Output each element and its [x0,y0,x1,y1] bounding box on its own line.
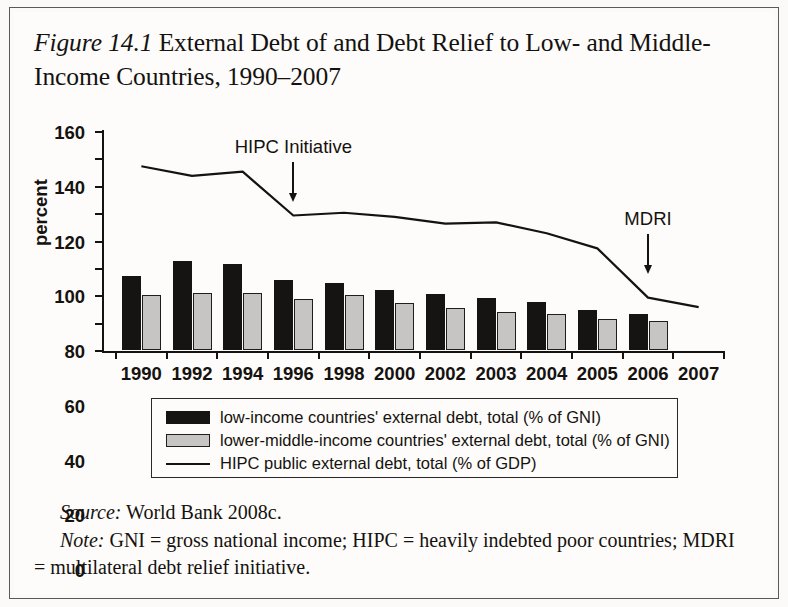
y-tick: 80 [95,241,102,243]
legend-swatch-line-icon [166,457,210,470]
figure-content: Figure 14.1 External Debt of and Debt Re… [14,12,774,595]
x-tick-label: 2004 [526,363,567,385]
source-note: Source: World Bank 2008c. [34,499,744,526]
x-tick-label: 1992 [171,363,212,385]
y-tick-label: 60 [64,396,85,418]
note-text: GNI = gross national income; HIPC = heav… [34,529,735,578]
legend-swatch-light-square-icon [166,434,210,447]
x-tick-label: 1998 [323,363,364,385]
legend-label: HIPC public external debt, total (% of G… [220,454,536,473]
legend-label: lower-middle-income countries' external … [220,431,670,450]
x-tick-label: 2007 [678,363,719,385]
source-text: World Bank 2008c. [121,501,281,523]
x-tick-label: 2002 [425,363,466,385]
chart-area: percent 020406080100120140160 1990199219… [14,112,774,402]
figure-page: Figure 14.1 External Debt of and Debt Re… [0,0,788,607]
y-tick-label: 40 [64,451,85,473]
legend-item-lower-middle-income: lower-middle-income countries' external … [166,429,677,451]
line-series-hipc [102,130,724,353]
y-tick-label: 120 [54,232,85,254]
y-tick: 120 [95,186,102,188]
x-tick-label: 2005 [577,363,618,385]
legend-item-low-income: low-income countries' external debt, tot… [166,406,677,428]
y-tick-label: 100 [54,286,85,308]
plot-region: 020406080100120140160 199019921994199619… [102,130,722,352]
annotation-label-hipc-initiative: HIPC Initiative [235,136,352,158]
y-tick: 20 [95,323,102,325]
legend-item-hipc-line: HIPC public external debt, total (% of G… [166,452,677,474]
y-tick-label: 140 [54,177,85,199]
figure-title: Figure 14.1 External Debt of and Debt Re… [34,26,734,94]
annotation-arrow-down-icon [641,234,655,274]
note-label: Note: [60,529,104,551]
x-tick-label: 2003 [475,363,516,385]
y-tick: 100 [95,213,102,215]
y-tick-label: 80 [64,341,85,363]
y-tick: 0 [95,350,102,352]
annotation-label-mdri: MDRI [624,208,671,230]
y-tick: 140 [95,158,102,160]
source-label: Source: [60,501,121,523]
legend-label: low-income countries' external debt, tot… [220,408,601,427]
x-tick-label: 1990 [121,363,162,385]
figure-footnotes: Source: World Bank 2008c. Note: GNI = gr… [34,499,744,582]
legend-swatch-dark-square-icon [166,411,210,424]
note-note: Note: GNI = gross national income; HIPC … [34,527,744,581]
x-tick-label: 1994 [222,363,263,385]
y-tick: 160 [95,131,102,133]
y-axis-title: percent [30,179,52,246]
x-tick-label: 1996 [273,363,314,385]
y-tick-label: 160 [54,122,85,144]
x-tick-label: 2006 [627,363,668,385]
figure-number: Figure 14.1 [34,28,152,57]
x-tick-label: 2000 [374,363,415,385]
y-tick: 60 [95,268,102,270]
annotation-arrow-down-icon [286,162,300,202]
y-tick: 40 [95,295,102,297]
chart-legend: low-income countries' external debt, tot… [151,398,678,478]
